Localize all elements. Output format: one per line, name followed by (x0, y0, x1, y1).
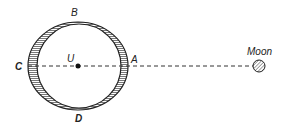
label-moon: Moon (247, 46, 272, 57)
earth-center-dot (76, 64, 81, 69)
label-a: A (130, 54, 138, 65)
tidal-diagram: B C U A D Moon (0, 0, 286, 129)
label-u: U (67, 53, 75, 64)
moon (253, 60, 265, 72)
label-b: B (71, 7, 78, 18)
label-d: D (75, 113, 82, 124)
label-c: C (15, 61, 23, 72)
